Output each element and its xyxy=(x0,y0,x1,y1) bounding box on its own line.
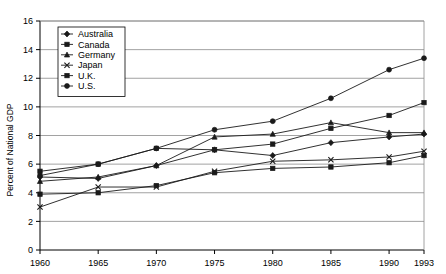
y-tick-label: 0 xyxy=(28,245,33,255)
x-tick-label: 1990 xyxy=(379,258,399,268)
data-point-marker xyxy=(387,67,392,72)
data-point-marker xyxy=(154,146,159,151)
x-tick-label: 1993 xyxy=(414,258,434,268)
data-point-marker xyxy=(154,183,158,187)
x-tick-label: 1970 xyxy=(146,258,166,268)
data-point-marker xyxy=(387,113,391,117)
data-point-marker xyxy=(96,191,100,195)
y-axis-title: Percent of National GDP xyxy=(5,103,15,196)
x-tick-label: 1960 xyxy=(30,258,50,268)
data-point-marker xyxy=(38,192,42,196)
legend-label: U.K. xyxy=(78,71,96,81)
data-point-marker xyxy=(212,148,216,152)
y-tick-label: 6 xyxy=(28,159,33,169)
chart-container: 19601965197019751980198519901993 0246810… xyxy=(0,0,446,274)
data-point-marker xyxy=(65,73,69,77)
data-point-marker xyxy=(329,165,333,169)
data-point-marker xyxy=(329,126,333,130)
x-axis-tick-labels: 19601965197019751980198519901993 xyxy=(30,258,434,268)
series-australia xyxy=(37,131,426,181)
data-point-marker xyxy=(271,142,275,146)
legend-label: Australia xyxy=(78,29,113,39)
data-point-marker xyxy=(422,56,427,61)
data-point-marker xyxy=(212,171,216,175)
legend-label: Germany xyxy=(78,50,116,60)
legend-label: U.S. xyxy=(78,81,96,91)
y-tick-label: 4 xyxy=(28,188,33,198)
data-point-marker xyxy=(96,162,101,167)
data-point-marker xyxy=(65,42,69,46)
y-tick-label: 12 xyxy=(23,73,33,83)
legend-label: Canada xyxy=(78,40,110,50)
data-point-marker xyxy=(328,96,333,101)
x-tick-label: 1980 xyxy=(263,258,283,268)
chart-legend: AustraliaCanadaGermanyJapanU.K.U.S. xyxy=(58,27,125,96)
x-tick-label: 1965 xyxy=(88,258,108,268)
y-axis-tick-labels: 0246810121416 xyxy=(23,16,33,255)
data-point-marker xyxy=(328,140,333,146)
legend-label: Japan xyxy=(78,60,103,70)
data-point-marker xyxy=(328,120,333,125)
y-tick-label: 16 xyxy=(23,16,33,26)
data-point-marker xyxy=(270,119,275,124)
x-tick-label: 1975 xyxy=(205,258,225,268)
line-chart: 19601965197019751980198519901993 0246810… xyxy=(0,0,446,274)
y-tick-label: 8 xyxy=(28,131,33,141)
data-point-marker xyxy=(270,153,275,159)
series-u-k xyxy=(38,153,426,196)
y-tick-label: 10 xyxy=(23,102,33,112)
x-tick-label: 1985 xyxy=(321,258,341,268)
data-point-marker xyxy=(65,84,70,89)
data-point-marker xyxy=(271,166,275,170)
data-point-marker xyxy=(422,153,426,157)
y-tick-label: 2 xyxy=(28,217,33,227)
data-point-marker xyxy=(387,160,391,164)
data-point-marker xyxy=(422,100,426,104)
data-point-marker xyxy=(212,127,217,132)
data-point-marker xyxy=(38,173,43,178)
x-axis-ticks xyxy=(40,250,424,254)
y-axis-ticks xyxy=(36,21,40,250)
y-tick-label: 14 xyxy=(23,45,33,55)
